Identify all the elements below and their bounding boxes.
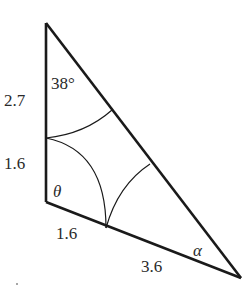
- label-base-left: 1.6: [56, 224, 77, 243]
- label-base-right: 3.6: [141, 257, 162, 276]
- label-vertical-lower: 1.6: [4, 154, 25, 173]
- label-angle-theta: θ: [53, 182, 61, 201]
- speck: [16, 283, 18, 285]
- label-angle-alpha: α: [193, 241, 203, 260]
- label-vertical-upper: 2.7: [4, 91, 26, 110]
- arc-lower-right: [106, 164, 150, 228]
- triangle-figure: 2.7 1.6 38° θ 1.6 3.6 α: [0, 0, 250, 299]
- arc-upper: [46, 110, 112, 138]
- label-angle-top: 38°: [51, 74, 75, 93]
